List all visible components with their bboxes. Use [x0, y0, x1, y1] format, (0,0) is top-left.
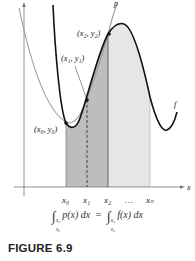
point-label-x1-y1: (x₁, y₁): [61, 53, 85, 63]
region-x2-xn: [108, 23, 150, 187]
right-integrand: f(x) dx: [117, 209, 143, 220]
integral-limits-left: x₂x₀: [56, 216, 60, 234]
integral-equation: ∫x₂x₀p(x) dx = ∫x₂x₀f(x) dx: [0, 209, 195, 234]
x-axis-arrow: [180, 185, 185, 189]
equals-sign: =: [96, 209, 102, 220]
point-x0-y0: [64, 121, 68, 125]
curve-p-label: p: [113, 0, 118, 8]
tick-ellipsis: …: [125, 195, 133, 205]
point-label-x2-y2: (x₂, y₂): [77, 28, 101, 38]
integral-limits-right: x₂x₀: [111, 216, 115, 234]
tick-xn: xₙ: [145, 195, 154, 205]
y-axis-arrow: [22, 2, 26, 7]
x-axis-label: x: [186, 183, 191, 192]
figure-caption: FIGURE 6.9: [8, 242, 73, 254]
point-x2-y2: [107, 32, 111, 36]
tick-x1: x₁: [82, 195, 90, 205]
x1-leader-line: [75, 66, 86, 97]
left-integrand: p(x) dx: [62, 209, 90, 220]
figure-plot: x p f (x₀, y₀) (x₁, y₁) (x₂, y₂) x₀ x₁ x…: [0, 0, 195, 215]
point-x1-y1: [85, 98, 89, 102]
tick-x0: x₀: [61, 195, 69, 205]
tick-x2: x₂: [103, 195, 111, 205]
point-label-x0-y0: (x₀, y₀): [34, 124, 58, 134]
curve-f-label: f: [174, 99, 178, 109]
